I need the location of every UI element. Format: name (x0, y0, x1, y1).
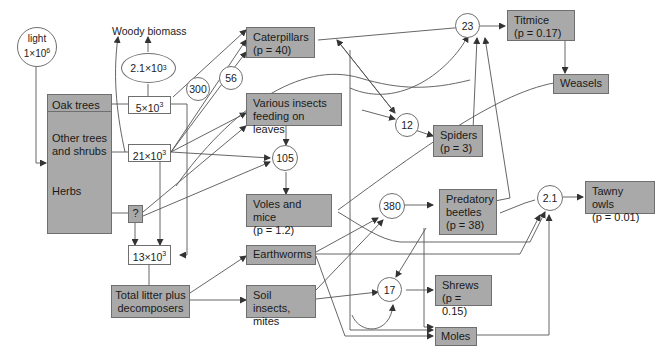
spiders-box: Spiders (p = 3) (433, 125, 483, 157)
shrews-box: Shrews (p = 0.15) (435, 275, 492, 306)
owls-p: (p = 0.01) (592, 211, 648, 224)
titmice-box: Titmice (p = 0.17) (507, 10, 575, 41)
caterpillars-name: Caterpillars (253, 31, 308, 44)
food-web-diagram: light 1×106 Woody biomass 2.1×103 Oak tr… (0, 0, 664, 363)
flow-circle-12: 12 (395, 113, 419, 137)
flow-circle-23: 23 (455, 13, 480, 38)
weasels-box: Weasels (553, 74, 609, 94)
flow-circle-105: 105 (272, 145, 298, 171)
herbs-flow-box: ? (128, 205, 143, 223)
flow-circle-2-1: 2.1 (537, 185, 563, 211)
light-value: 1×106 (24, 45, 50, 60)
titmice-name: Titmice (514, 14, 568, 27)
light-label: light (24, 33, 50, 45)
tawny-owls-box: Tawny owls (p = 0.01) (585, 181, 655, 214)
other-trees-label: Other trees and shrubs (52, 132, 112, 158)
flow-circle-17: 17 (377, 277, 402, 302)
soil-insects-box: Soil insects, mites (246, 285, 316, 318)
beetles-name: Predatory beetles (446, 193, 494, 219)
flow-circle-56: 56 (219, 66, 243, 90)
voles-name: Voles and mice (253, 198, 325, 224)
spiders-p: (p = 3) (440, 142, 476, 155)
light-source-circle: light 1×106 (17, 27, 57, 67)
voles-mice-box: Voles and mice (p = 1.2) (246, 194, 332, 227)
caterpillars-p: (p = 40) (253, 44, 308, 57)
predatory-beetles-box: Predatory beetles (p = 38) (439, 189, 497, 235)
flow-circle-300: 300 (186, 77, 210, 101)
litter-flow-box: 13×103 (128, 245, 171, 265)
producers-box: Oak trees Other trees and shrubs Herbs (47, 94, 112, 234)
woody-biomass-label: Woody biomass (112, 25, 187, 37)
spiders-name: Spiders (440, 129, 476, 142)
divider (47, 111, 112, 112)
voles-p: (p = 1.2) (253, 224, 325, 237)
flow-circle-380: 380 (379, 193, 405, 219)
earthworms-box: Earthworms (246, 245, 316, 265)
titmice-p: (p = 0.17) (514, 27, 568, 40)
shrews-p: (p = 0.15) (442, 292, 485, 318)
total-litter-box: Total litter plus decomposers (111, 285, 190, 318)
beetles-p: (p = 38) (446, 219, 490, 232)
moles-box: Moles (435, 327, 477, 346)
woody-flow-ellipse: 2.1×103 (121, 53, 176, 83)
various-insects-box: Various insects feeding on leaves (246, 93, 342, 126)
herbs-label: Herbs (52, 185, 81, 198)
owls-name: Tawny owls (592, 185, 648, 211)
shrews-name: Shrews (442, 279, 485, 292)
other-flow-box: 21×103 (128, 144, 171, 162)
oak-flow-box: 5×103 (128, 96, 171, 114)
caterpillars-box: Caterpillars (p = 40) (246, 27, 315, 58)
